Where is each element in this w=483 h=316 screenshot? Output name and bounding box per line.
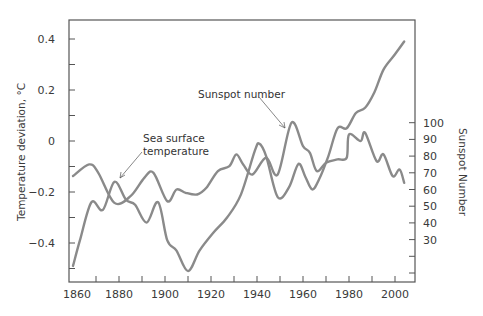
plot-frame	[69, 20, 415, 282]
left-axis-ticks: −0.4−0.200.20.4	[28, 33, 75, 269]
x-tick-label: 2000	[381, 288, 409, 301]
annotation-sunspot-arrow	[259, 97, 285, 128]
y-right-tick-label: 90	[423, 133, 437, 146]
y-right-tick-label: 50	[423, 200, 437, 213]
y-tick-label: 0.2	[38, 84, 56, 97]
x-tick-label: 1980	[335, 288, 363, 301]
annotation-sst-arrow	[120, 152, 142, 178]
series-lines	[73, 42, 404, 272]
right-axis-title: Sunspot Number	[457, 128, 469, 217]
y-right-tick-label: 100	[423, 117, 444, 130]
y-tick-label: −0.2	[28, 186, 55, 199]
y-right-tick-label: 80	[423, 150, 437, 163]
temperature-sunspot-chart: −0.4−0.200.20.4 30405060708090100 186018…	[0, 0, 483, 316]
left-axis-title: Temperature deviation, °C	[15, 83, 27, 222]
x-tick-label: 1940	[243, 288, 271, 301]
x-axis-ticks: 18601880190019201940196019802000	[63, 276, 409, 301]
x-tick-label: 1960	[289, 288, 317, 301]
right-axis-ticks: 30405060708090100	[409, 117, 444, 273]
y-right-tick-label: 30	[423, 234, 437, 247]
y-right-tick-label: 40	[423, 217, 437, 230]
annotation-sunspot: Sunspot number	[198, 88, 286, 100]
y-tick-label: −0.4	[28, 237, 55, 250]
x-tick-label: 1900	[151, 288, 179, 301]
x-tick-label: 1880	[105, 288, 133, 301]
y-right-tick-label: 60	[423, 184, 437, 197]
y-tick-label: 0.4	[38, 33, 56, 46]
annotation-sst-line2: temperature	[143, 145, 209, 157]
annotation-sst-line1: Sea surface	[143, 132, 205, 144]
x-tick-label: 1860	[63, 288, 91, 301]
x-tick-label: 1920	[197, 288, 225, 301]
y-tick-label: 0	[48, 135, 55, 148]
y-right-tick-label: 70	[423, 167, 437, 180]
